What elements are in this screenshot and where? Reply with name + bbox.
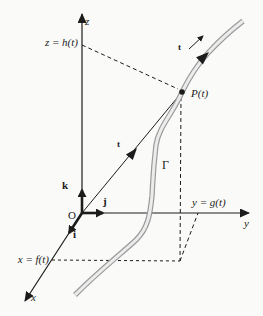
- tangent-direction-arrow: [189, 36, 203, 49]
- origin-label: O: [68, 209, 76, 221]
- point-P: [179, 89, 185, 95]
- k-vector-label: k: [62, 179, 69, 191]
- projection-line-z-to-P: [82, 45, 178, 89]
- z-equation-label: z = h(t): [44, 36, 78, 49]
- y-equation-label: y = g(t): [191, 196, 226, 209]
- space-curve-diagram: z y x z = h(t) y = g(t) x = f(t) P(t) O …: [0, 0, 263, 316]
- tangent-parameter-label: t: [178, 42, 181, 52]
- projection-line-P-to-xyplane: [180, 97, 181, 261]
- curve-gamma-label: Γ: [162, 158, 169, 172]
- z-axis-label: z: [84, 15, 90, 27]
- point-P-label: P(t): [190, 87, 208, 100]
- i-vector-label: i: [73, 228, 76, 240]
- x-axis-label: x: [30, 291, 36, 303]
- projection-line-xy-to-yaxis: [180, 213, 198, 261]
- figure-page: z y x z = h(t) y = g(t) x = f(t) P(t) O …: [0, 0, 263, 316]
- y-axis-label: y: [243, 217, 249, 229]
- curve-gamma: [75, 21, 243, 295]
- x-equation-label: x = f(t): [17, 253, 50, 266]
- radius-parameter-label: t: [117, 139, 120, 149]
- j-vector-label: j: [102, 195, 107, 207]
